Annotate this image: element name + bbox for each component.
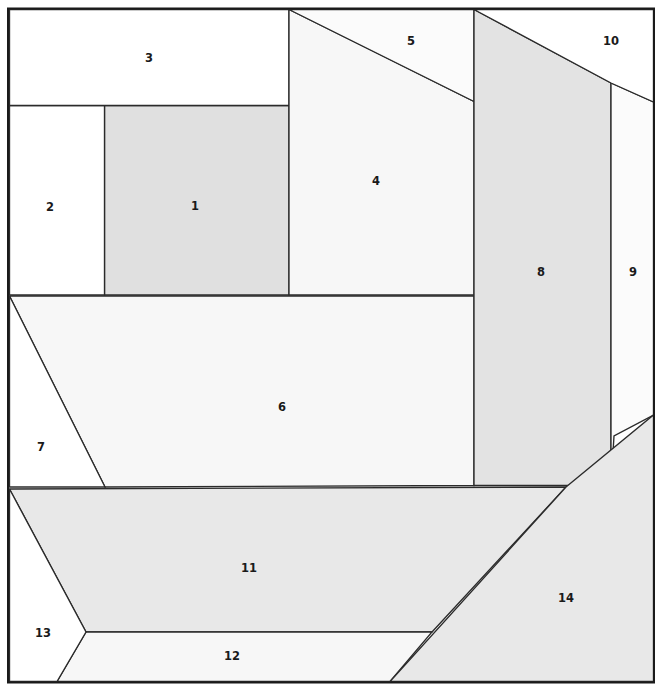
region-label-5: 5 bbox=[407, 34, 415, 48]
regions-layer bbox=[10, 10, 654, 682]
region-label-7: 7 bbox=[37, 440, 45, 454]
region-label-12: 12 bbox=[224, 649, 240, 663]
region-label-10: 10 bbox=[603, 34, 619, 48]
region-label-14: 14 bbox=[558, 591, 574, 605]
region-label-8: 8 bbox=[537, 265, 545, 279]
region-label-9: 9 bbox=[629, 265, 637, 279]
region-label-13: 13 bbox=[35, 626, 51, 640]
region-label-6: 6 bbox=[278, 400, 286, 414]
region-label-1: 1 bbox=[191, 199, 199, 213]
region-label-4: 4 bbox=[372, 174, 380, 188]
region-label-11: 11 bbox=[241, 561, 257, 575]
region-polygon-8[interactable] bbox=[474, 10, 611, 486]
region-label-3: 3 bbox=[145, 51, 153, 65]
region-label-2: 2 bbox=[46, 200, 54, 214]
figure-canvas: 1234567891011121314 bbox=[0, 0, 662, 691]
region-polygon-2[interactable] bbox=[10, 106, 105, 296]
polygon-partition-figure: 1234567891011121314 bbox=[0, 0, 662, 691]
region-polygon-12[interactable] bbox=[57, 632, 432, 682]
